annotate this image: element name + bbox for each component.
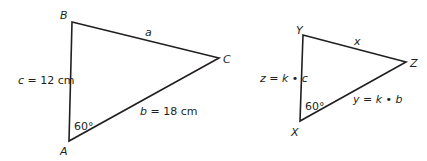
vertex-c-label: C (223, 53, 231, 66)
angle-x-label: 60° (305, 100, 325, 113)
vertex-b-label: B (60, 9, 68, 22)
vertex-z-label: Z (409, 57, 418, 70)
side-a-label: a (145, 26, 152, 39)
angle-a-label: 60° (74, 120, 94, 133)
diagram-canvas: B C A a c = 12 cm b = 18 cm 60° Y Z X x … (0, 0, 427, 161)
side-c-label: c = 12 cm (18, 74, 75, 87)
side-x-label: x (353, 35, 361, 48)
side-b-label: b = 18 cm (140, 105, 197, 118)
vertex-a-label: A (59, 145, 68, 158)
side-y-label: y = k • b (352, 93, 403, 106)
side-z-label: z = k • c (259, 72, 308, 85)
vertex-x-label: X (290, 126, 299, 139)
